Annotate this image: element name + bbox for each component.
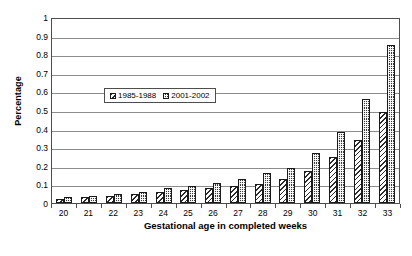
bar bbox=[156, 192, 164, 203]
bar-group bbox=[102, 19, 127, 203]
bar bbox=[139, 192, 147, 203]
x-tick-label: 28 bbox=[250, 205, 275, 221]
legend-label: 1985-1988 bbox=[118, 91, 156, 100]
bar-group bbox=[176, 19, 201, 203]
bar bbox=[106, 196, 114, 203]
bar-group bbox=[349, 19, 374, 203]
bar bbox=[329, 157, 337, 204]
x-tick-label: 32 bbox=[350, 205, 375, 221]
plot-area bbox=[51, 18, 400, 204]
y-tick-label: 0.7 bbox=[18, 69, 48, 79]
bar bbox=[279, 179, 287, 203]
legend-item: 2001-2002 bbox=[163, 91, 209, 100]
x-tick-label: 26 bbox=[201, 205, 226, 221]
bar-group bbox=[201, 19, 226, 203]
bar-group bbox=[225, 19, 250, 203]
bar bbox=[362, 99, 370, 203]
bar bbox=[312, 153, 320, 203]
legend-item: 1985-1988 bbox=[110, 91, 156, 100]
bar bbox=[81, 197, 89, 203]
x-tick-label: 23 bbox=[126, 205, 151, 221]
y-tick-label: 1 bbox=[18, 13, 48, 23]
y-tick-label: 0.6 bbox=[18, 87, 48, 97]
legend-swatch bbox=[163, 93, 169, 99]
x-tick-label: 25 bbox=[176, 205, 201, 221]
bar bbox=[230, 186, 238, 203]
y-tick-label: 0.4 bbox=[18, 125, 48, 135]
y-tick-label: 0 bbox=[18, 199, 48, 209]
y-axis-tick-labels: 00.10.20.30.40.50.60.70.80.91 bbox=[18, 12, 48, 206]
bar bbox=[188, 186, 196, 203]
bar bbox=[114, 194, 122, 203]
bar-group bbox=[126, 19, 151, 203]
bar-group bbox=[250, 19, 275, 203]
y-tick-label: 0.8 bbox=[18, 50, 48, 60]
bar-group bbox=[374, 19, 399, 203]
bar bbox=[64, 197, 72, 203]
chart-legend: 1985-19882001-2002 bbox=[104, 88, 216, 103]
bar bbox=[379, 112, 387, 203]
x-tick-label: 30 bbox=[300, 205, 325, 221]
bar-group bbox=[300, 19, 325, 203]
legend-label: 2001-2002 bbox=[171, 91, 209, 100]
x-tick-label: 21 bbox=[76, 205, 101, 221]
x-tick-label: 27 bbox=[225, 205, 250, 221]
x-tickmark bbox=[400, 204, 401, 208]
bar-group bbox=[325, 19, 350, 203]
x-axis-title: Gestational age in completed weeks bbox=[51, 220, 400, 231]
x-axis-tick-labels: 2021222324252627282930313233 bbox=[51, 205, 400, 221]
bar bbox=[238, 179, 246, 203]
bar-chart-figure: Percentage 00.10.20.30.40.50.60.70.80.91… bbox=[0, 0, 412, 256]
bar-group bbox=[151, 19, 176, 203]
bar bbox=[387, 45, 395, 203]
bar bbox=[263, 173, 271, 203]
x-tick-label: 31 bbox=[325, 205, 350, 221]
bar bbox=[213, 183, 221, 203]
bar bbox=[56, 199, 64, 203]
bar bbox=[89, 196, 97, 203]
bar bbox=[354, 140, 362, 203]
legend-swatch bbox=[110, 93, 116, 99]
bar bbox=[131, 194, 139, 203]
x-tick-label: 24 bbox=[151, 205, 176, 221]
x-tick-label: 33 bbox=[375, 205, 400, 221]
bar-groups bbox=[52, 19, 399, 203]
bar bbox=[337, 132, 345, 203]
bar bbox=[205, 188, 213, 203]
bar bbox=[180, 190, 188, 203]
x-tick-label: 29 bbox=[275, 205, 300, 221]
bar-group bbox=[77, 19, 102, 203]
bar bbox=[164, 188, 172, 203]
y-tick-label: 0.9 bbox=[18, 32, 48, 42]
y-tick-label: 0.2 bbox=[18, 162, 48, 172]
x-tick-label: 20 bbox=[51, 205, 76, 221]
bar-group bbox=[52, 19, 77, 203]
bar-group bbox=[275, 19, 300, 203]
y-tick-label: 0.1 bbox=[18, 180, 48, 190]
y-tick-label: 0.3 bbox=[18, 143, 48, 153]
bar bbox=[287, 168, 295, 203]
y-tick-label: 0.5 bbox=[18, 106, 48, 116]
bar bbox=[255, 184, 263, 203]
bar bbox=[304, 171, 312, 203]
x-tick-label: 22 bbox=[101, 205, 126, 221]
